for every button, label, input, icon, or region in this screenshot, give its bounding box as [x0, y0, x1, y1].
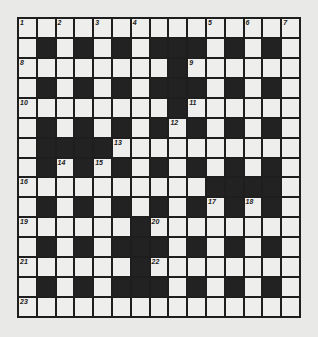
- answer-cell[interactable]: [207, 298, 224, 316]
- answer-cell[interactable]: [57, 258, 74, 276]
- answer-cell[interactable]: 11: [188, 99, 205, 117]
- answer-cell[interactable]: [188, 178, 205, 196]
- answer-cell[interactable]: [245, 278, 262, 296]
- answer-cell[interactable]: [169, 258, 186, 276]
- answer-cell[interactable]: [94, 39, 111, 57]
- answer-cell[interactable]: [207, 99, 224, 117]
- answer-cell[interactable]: [94, 99, 111, 117]
- answer-cell[interactable]: [132, 159, 149, 177]
- answer-cell[interactable]: [226, 218, 243, 236]
- answer-cell[interactable]: [113, 59, 130, 77]
- answer-cell[interactable]: [94, 178, 111, 196]
- answer-cell[interactable]: [38, 19, 55, 37]
- answer-cell[interactable]: [57, 79, 74, 97]
- answer-cell[interactable]: [282, 258, 299, 276]
- answer-cell[interactable]: [132, 139, 149, 157]
- answer-cell[interactable]: [226, 59, 243, 77]
- answer-cell[interactable]: [207, 59, 224, 77]
- answer-cell[interactable]: [169, 139, 186, 157]
- answer-cell[interactable]: [94, 238, 111, 256]
- answer-cell[interactable]: [75, 19, 92, 37]
- answer-cell[interactable]: [245, 99, 262, 117]
- answer-cell[interactable]: [19, 119, 36, 137]
- answer-cell[interactable]: [57, 178, 74, 196]
- answer-cell[interactable]: [282, 178, 299, 196]
- answer-cell[interactable]: [169, 159, 186, 177]
- answer-cell[interactable]: [282, 99, 299, 117]
- answer-cell[interactable]: [207, 258, 224, 276]
- answer-cell[interactable]: [207, 159, 224, 177]
- answer-cell[interactable]: [282, 238, 299, 256]
- answer-cell[interactable]: [94, 59, 111, 77]
- answer-cell[interactable]: [38, 99, 55, 117]
- answer-cell[interactable]: [57, 198, 74, 216]
- answer-cell[interactable]: 9: [188, 59, 205, 77]
- answer-cell[interactable]: [169, 238, 186, 256]
- answer-cell[interactable]: [57, 218, 74, 236]
- answer-cell[interactable]: [263, 139, 280, 157]
- answer-cell[interactable]: [282, 198, 299, 216]
- answer-cell[interactable]: [132, 79, 149, 97]
- answer-cell[interactable]: [245, 159, 262, 177]
- answer-cell[interactable]: 19: [19, 218, 36, 236]
- answer-cell[interactable]: [75, 99, 92, 117]
- answer-cell[interactable]: [19, 238, 36, 256]
- answer-cell[interactable]: [245, 258, 262, 276]
- answer-cell[interactable]: [57, 119, 74, 137]
- answer-cell[interactable]: [226, 19, 243, 37]
- answer-cell[interactable]: [169, 278, 186, 296]
- answer-cell[interactable]: 8: [19, 59, 36, 77]
- answer-cell[interactable]: [94, 119, 111, 137]
- answer-cell[interactable]: [132, 99, 149, 117]
- answer-cell[interactable]: [151, 99, 168, 117]
- answer-cell[interactable]: 5: [207, 19, 224, 37]
- answer-cell[interactable]: [188, 298, 205, 316]
- answer-cell[interactable]: [263, 258, 280, 276]
- answer-cell[interactable]: [263, 298, 280, 316]
- answer-cell[interactable]: 10: [19, 99, 36, 117]
- answer-cell[interactable]: [19, 198, 36, 216]
- answer-cell[interactable]: 1: [19, 19, 36, 37]
- answer-cell[interactable]: [151, 19, 168, 37]
- answer-cell[interactable]: 12: [169, 119, 186, 137]
- answer-cell[interactable]: [94, 198, 111, 216]
- answer-cell[interactable]: [113, 178, 130, 196]
- answer-cell[interactable]: [75, 218, 92, 236]
- answer-cell[interactable]: [282, 159, 299, 177]
- answer-cell[interactable]: [113, 99, 130, 117]
- answer-cell[interactable]: [19, 39, 36, 57]
- answer-cell[interactable]: [245, 39, 262, 57]
- answer-cell[interactable]: [226, 139, 243, 157]
- answer-cell[interactable]: 13: [113, 139, 130, 157]
- answer-cell[interactable]: [57, 238, 74, 256]
- answer-cell[interactable]: [245, 298, 262, 316]
- answer-cell[interactable]: [94, 258, 111, 276]
- answer-cell[interactable]: [113, 258, 130, 276]
- answer-cell[interactable]: [38, 218, 55, 236]
- answer-cell[interactable]: 14: [57, 159, 74, 177]
- answer-cell[interactable]: 3: [94, 19, 111, 37]
- answer-cell[interactable]: [169, 218, 186, 236]
- answer-cell[interactable]: [207, 79, 224, 97]
- answer-cell[interactable]: [38, 59, 55, 77]
- answer-cell[interactable]: [282, 79, 299, 97]
- answer-cell[interactable]: [132, 298, 149, 316]
- answer-cell[interactable]: [57, 99, 74, 117]
- answer-cell[interactable]: 4: [132, 19, 149, 37]
- answer-cell[interactable]: 16: [19, 178, 36, 196]
- answer-cell[interactable]: [282, 39, 299, 57]
- answer-cell[interactable]: 23: [19, 298, 36, 316]
- answer-cell[interactable]: [207, 39, 224, 57]
- answer-cell[interactable]: 2: [57, 19, 74, 37]
- answer-cell[interactable]: [245, 59, 262, 77]
- answer-cell[interactable]: [282, 218, 299, 236]
- answer-cell[interactable]: [282, 119, 299, 137]
- answer-cell[interactable]: [38, 258, 55, 276]
- answer-cell[interactable]: [132, 178, 149, 196]
- answer-cell[interactable]: [113, 19, 130, 37]
- answer-cell[interactable]: [151, 298, 168, 316]
- answer-cell[interactable]: [282, 59, 299, 77]
- answer-cell[interactable]: [226, 258, 243, 276]
- answer-cell[interactable]: [19, 159, 36, 177]
- answer-cell[interactable]: [57, 298, 74, 316]
